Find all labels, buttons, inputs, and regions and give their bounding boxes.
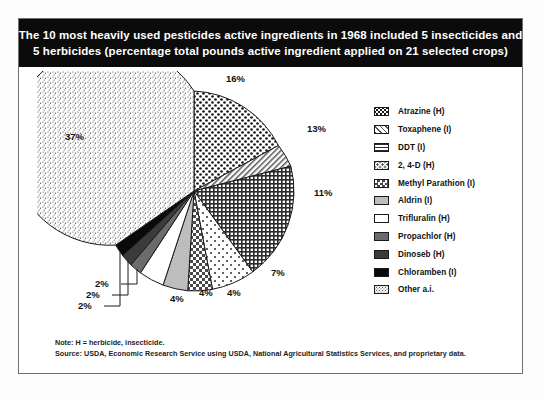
pie-percent-other: 37% bbox=[65, 131, 84, 142]
chart-panel: The 10 most heavily used pesticides acti… bbox=[18, 18, 523, 374]
legend-swatch-chloramben bbox=[374, 268, 389, 277]
pie-slices bbox=[37, 71, 294, 291]
legend-label-24d: 2, 4-D (H) bbox=[398, 161, 434, 170]
pie-percent-24d: 7% bbox=[271, 267, 285, 278]
plot-area: 16% 13% 11% 7% 4% 4% 4% 2% 2% 2% 37% Atr… bbox=[19, 67, 522, 375]
pie-percent-propachlor: 2% bbox=[95, 278, 109, 289]
legend-label-methyl-parathion: Methyl Parathion (I) bbox=[398, 179, 475, 188]
legend-swatch-trifluralin bbox=[374, 214, 389, 223]
legend-item-chloramben[interactable]: Chloramben (I) bbox=[374, 263, 524, 281]
legend-label-toxaphene: Toxaphene (I) bbox=[398, 125, 451, 134]
legend-swatch-ddt bbox=[374, 143, 389, 152]
pie-percent-atrazine: 16% bbox=[226, 73, 245, 84]
chart-title-line-2: 5 herbicides (percentage total pounds ac… bbox=[33, 43, 508, 59]
legend-label-aldrin: Aldrin (I) bbox=[398, 196, 432, 205]
chart-footnotes: Note: H = herbicide, insecticide. Source… bbox=[55, 338, 505, 359]
legend-swatch-dinoseb bbox=[374, 250, 389, 259]
legend-item-atrazine[interactable]: Atrazine (H) bbox=[374, 103, 524, 121]
legend-swatch-toxaphene bbox=[374, 125, 389, 134]
legend-swatch-24d bbox=[374, 161, 389, 170]
legend-item-toxaphene[interactable]: Toxaphene (I) bbox=[374, 121, 524, 139]
pie-percent-trifluralin: 4% bbox=[170, 293, 184, 304]
legend-item-24d[interactable]: 2, 4-D (H) bbox=[374, 156, 524, 174]
legend-item-ddt[interactable]: DDT (I) bbox=[374, 139, 524, 157]
legend-swatch-other bbox=[374, 285, 389, 294]
legend-item-dinoseb[interactable]: Dinoseb (H) bbox=[374, 245, 524, 263]
legend-swatch-propachlor bbox=[374, 232, 389, 241]
legend-item-trifluralin[interactable]: Trifluralin (H) bbox=[374, 210, 524, 228]
pie-percent-aldrin: 4% bbox=[199, 287, 213, 298]
legend-label-propachlor: Propachlor (H) bbox=[398, 232, 456, 241]
pie-chart: 16% 13% 11% 7% 4% 4% 4% 2% 2% 2% 37% bbox=[37, 71, 347, 311]
legend-swatch-atrazine bbox=[374, 107, 389, 116]
pie-percent-chloramben: 2% bbox=[78, 300, 92, 311]
pie-percent-dinoseb: 2% bbox=[86, 289, 100, 300]
chart-title-bar: The 10 most heavily used pesticides acti… bbox=[19, 19, 522, 67]
footnote-source: Source: USDA, Economic Research Service … bbox=[55, 349, 505, 360]
pie-chart-svg bbox=[37, 71, 347, 311]
legend-label-dinoseb: Dinoseb (H) bbox=[398, 250, 445, 259]
footnote-note: Note: H = herbicide, insecticide. bbox=[55, 338, 505, 349]
legend-item-aldrin[interactable]: Aldrin (I) bbox=[374, 192, 524, 210]
pie-percent-methyl-parathion: 4% bbox=[227, 287, 241, 298]
legend-item-other[interactable]: Other a.i. bbox=[374, 281, 524, 299]
legend-label-trifluralin: Trifluralin (H) bbox=[398, 214, 450, 223]
pie-percent-toxaphene: 13% bbox=[307, 123, 326, 134]
legend-label-other: Other a.i. bbox=[398, 285, 434, 294]
legend-swatch-aldrin bbox=[374, 196, 389, 205]
legend-swatch-methyl-parathion bbox=[374, 179, 389, 188]
legend-item-methyl-parathion[interactable]: Methyl Parathion (I) bbox=[374, 174, 524, 192]
legend-label-atrazine: Atrazine (H) bbox=[398, 107, 445, 116]
legend-item-propachlor[interactable]: Propachlor (H) bbox=[374, 228, 524, 246]
pie-percent-ddt: 11% bbox=[314, 187, 333, 198]
chart-title-line-1: The 10 most heavily used pesticides acti… bbox=[19, 27, 523, 43]
chart-legend: Atrazine (H) Toxaphene (I) DDT (I) 2, 4-… bbox=[374, 103, 524, 299]
legend-label-chloramben: Chloramben (I) bbox=[398, 268, 456, 277]
legend-label-ddt: DDT (I) bbox=[398, 143, 425, 152]
